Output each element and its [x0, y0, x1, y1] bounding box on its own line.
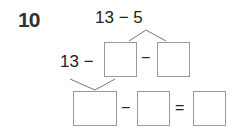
minus-sign-2: −	[121, 100, 130, 116]
answer-box-5[interactable]	[193, 91, 226, 126]
minus-sign-1: −	[141, 50, 150, 66]
answer-box-4[interactable]	[137, 91, 170, 126]
answer-box-2[interactable]	[157, 42, 190, 77]
step1-prefix: 13 −	[60, 53, 94, 70]
answer-box-3[interactable]	[73, 91, 117, 126]
answer-box-1[interactable]	[104, 42, 137, 77]
equals-sign: =	[175, 100, 184, 116]
